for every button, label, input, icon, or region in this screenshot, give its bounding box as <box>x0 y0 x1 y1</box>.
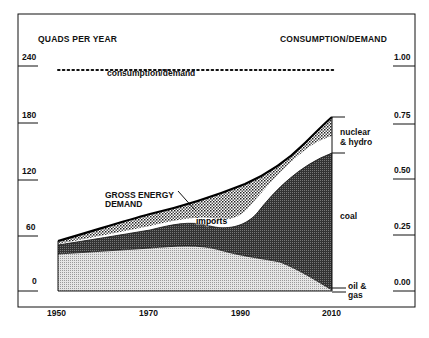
x-tick-1990: 1990 <box>231 308 250 318</box>
left-axis-ticks <box>18 66 38 291</box>
left-tick-180: 180 <box>22 110 36 120</box>
imports-label: imports <box>196 216 227 226</box>
gross-demand-label-2: DEMAND <box>105 199 142 209</box>
right-axis-ticks <box>393 66 415 291</box>
right-axis-title: CONSUMPTION/DEMAND <box>280 34 387 44</box>
right-tick-0-25: 0.25 <box>394 221 411 231</box>
right-tick-0-00: 0.00 <box>394 277 411 287</box>
nuclear-hydro-label-1: nuclear <box>340 127 370 137</box>
consumption-demand-label: consumption/demand <box>107 68 195 78</box>
left-tick-240: 240 <box>22 52 36 62</box>
x-tick-1970: 1970 <box>139 308 158 318</box>
right-tick-0-75: 0.75 <box>394 110 411 120</box>
left-axis-title: QUADS PER YEAR <box>38 34 117 44</box>
left-tick-60: 60 <box>26 222 35 232</box>
x-tick-1950: 1950 <box>47 308 66 318</box>
right-tick-1-00: 1.00 <box>394 52 411 62</box>
nuclear-hydro-label-2: & hydro <box>340 137 372 147</box>
x-tick-2010: 2010 <box>322 308 341 318</box>
coal-label: coal <box>340 211 357 221</box>
right-tick-0-50: 0.50 <box>394 165 411 175</box>
left-tick-120: 120 <box>22 166 36 176</box>
left-tick-0: 0 <box>32 276 37 286</box>
oil-gas-label-2: gas <box>348 290 363 300</box>
